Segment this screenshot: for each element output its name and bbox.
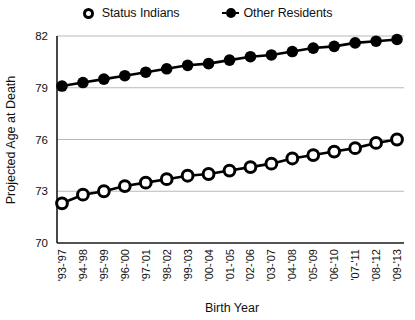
data-point — [329, 146, 340, 157]
data-point — [78, 189, 89, 200]
data-point — [140, 177, 151, 188]
data-point — [245, 51, 257, 63]
data-point — [140, 66, 152, 78]
x-tick-label: '94-'98 — [77, 249, 89, 281]
data-point — [266, 158, 277, 169]
chart-container: Status Indians Other Residents 707376798… — [0, 0, 415, 320]
x-tick-labels: '93-'97'94-'98'95-'99'96-'00'97-'01'98-'… — [56, 249, 403, 281]
x-tick-label: '97-'01 — [140, 249, 152, 281]
y-tick-label: 70 — [35, 237, 48, 249]
data-point — [287, 153, 298, 164]
data-point — [308, 150, 319, 161]
data-point — [161, 174, 172, 185]
data-series-layer — [56, 34, 403, 209]
y-tick-labels: 7073767982 — [35, 30, 48, 249]
x-tick-label: '08-'12 — [370, 249, 382, 281]
data-point — [98, 73, 110, 85]
x-tick-label: '03-'07 — [265, 249, 277, 281]
data-point — [161, 63, 173, 75]
data-point — [77, 77, 89, 89]
x-tick-label: '04-'08 — [286, 249, 298, 281]
data-point — [224, 165, 235, 176]
data-point — [391, 34, 403, 46]
x-tick-label: '02-'06 — [244, 249, 256, 281]
x-tick-label: '98-'02 — [161, 249, 173, 281]
data-point — [328, 41, 340, 53]
x-tick-label: '06-'10 — [328, 249, 340, 281]
x-tick-label: '99-'03 — [182, 249, 194, 281]
x-tick-label: '95-'99 — [98, 249, 110, 281]
y-tick-label: 82 — [35, 30, 48, 42]
data-point — [245, 162, 256, 173]
data-point — [224, 54, 236, 66]
data-point — [203, 169, 214, 180]
data-point — [392, 134, 403, 145]
y-tick-label: 73 — [35, 185, 48, 197]
y-tick-label: 76 — [35, 134, 48, 146]
chart-plot: 7073767982 '93-'97'94-'98'95-'99'96-'00'… — [0, 0, 415, 320]
data-point — [371, 138, 382, 149]
x-tick-label: '01-'05 — [224, 249, 236, 281]
data-point — [370, 35, 382, 47]
data-point — [57, 198, 68, 209]
y-tick-label: 79 — [35, 82, 48, 94]
x-tick-label: '07-'11 — [349, 249, 361, 281]
data-point — [119, 181, 130, 192]
data-point — [182, 170, 193, 181]
y-axis-title: Projected Age at Death — [4, 76, 18, 205]
x-tick-label: '93-'97 — [56, 249, 68, 281]
data-point — [182, 60, 194, 72]
x-tick-label: '00-'04 — [203, 249, 215, 281]
data-point — [350, 143, 361, 154]
data-point — [203, 58, 215, 70]
data-point — [56, 80, 68, 92]
data-point — [307, 42, 319, 54]
data-point — [349, 37, 361, 49]
x-tick-label: '96-'00 — [119, 249, 131, 281]
x-tick-label: '05-'09 — [307, 249, 319, 281]
data-point — [266, 49, 278, 61]
x-axis-title: Birth Year — [205, 301, 259, 315]
data-point — [287, 46, 299, 58]
x-tick-label: '09-'13 — [391, 249, 403, 281]
data-point — [98, 186, 109, 197]
data-point — [119, 70, 131, 82]
